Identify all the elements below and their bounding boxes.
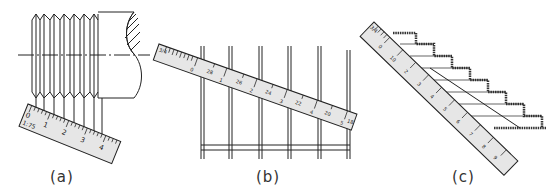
panel-c-scale-ruler: 3/4 0 10 2 3 4 5 6 7 8 9 <box>360 22 518 175</box>
caption-a: (a) <box>50 168 74 186</box>
caption-b: (b) <box>256 168 280 186</box>
figure-canvas: 0 1 2 3 4 1:75 3/4 0 1 2 3 4 5 <box>0 0 556 194</box>
panel-b-scale-ruler: 3/4 0 1 2 3 4 5 28 26 24 22 20 18 <box>153 44 357 130</box>
caption-c: (c) <box>452 168 475 186</box>
panel-a-scale-ruler: 0 1 2 3 4 1:75 <box>19 104 121 164</box>
